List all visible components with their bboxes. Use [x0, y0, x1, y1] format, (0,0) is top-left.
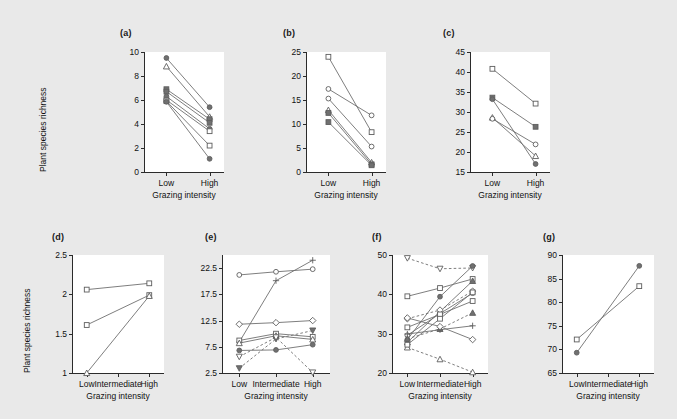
data-point-g-0-1: [637, 263, 642, 268]
series-line-g-1: [577, 286, 640, 339]
data-point-g-1-1: [637, 284, 642, 289]
series-line-g-0: [577, 266, 640, 353]
data-point-g-1-0: [574, 337, 579, 342]
figure-canvas: (a)0246810LowHighGrazing intensityPlant …: [0, 0, 677, 419]
data-point-g-0-0: [574, 350, 579, 355]
series-layer-g: [0, 0, 677, 419]
panel-g: (g)657075808590LowIntermediateHighGrazin…: [0, 0, 677, 419]
